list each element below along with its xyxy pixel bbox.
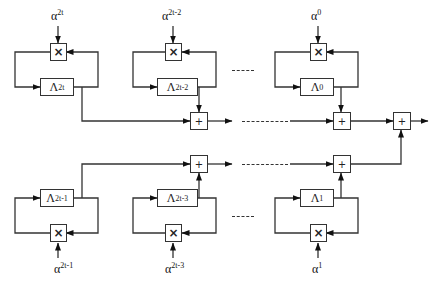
alpha-label-2t-2: α2t-2: [162, 9, 181, 22]
register-lambda-2t-1: Λ2t-1: [40, 189, 74, 207]
register-lambda-2t-3: Λ2t-3: [157, 189, 198, 207]
adder-bottom-2: +: [333, 155, 351, 173]
ellipsis-bottom-sum: [242, 164, 288, 165]
multiplier-2t-2: ×: [165, 43, 182, 61]
ellipsis-top-row: [232, 70, 254, 71]
alpha-label-0: α0: [311, 9, 321, 22]
ellipsis-top-sum: [242, 121, 288, 122]
multiplier-1: ×: [310, 224, 327, 242]
adder-bottom-1: +: [190, 155, 208, 173]
register-lambda-2t: Λ2t: [40, 78, 74, 96]
adder-top-2: +: [333, 112, 351, 130]
multiplier-2t-1: ×: [50, 224, 67, 242]
adder-top-1: +: [190, 112, 208, 130]
register-lambda-1: Λ1: [300, 189, 334, 207]
adder-final: +: [393, 112, 411, 130]
multiplier-2t: ×: [50, 43, 67, 61]
ellipsis-bottom-row: [232, 216, 254, 217]
multiplier-2t-3: ×: [165, 224, 182, 242]
register-lambda-0: Λ0: [300, 78, 334, 96]
register-lambda-2t-2: Λ2t-2: [157, 78, 198, 96]
alpha-label-2t-1: α2t-1: [54, 262, 73, 275]
alpha-label-2t: α2t: [51, 9, 64, 22]
alpha-label-2t-3: α2t-3: [165, 262, 184, 275]
alpha-label-1: α1: [312, 262, 322, 275]
multiplier-0: ×: [310, 43, 327, 61]
